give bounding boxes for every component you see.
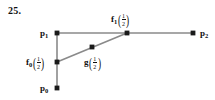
- point-p2: [191, 31, 196, 36]
- fraction-one-half: 1 2: [93, 56, 98, 70]
- label-g-half: g( 1 2 ): [84, 56, 101, 70]
- points-group: [55, 31, 196, 91]
- label-f1-half-name: f1: [111, 15, 117, 24]
- fraction-denominator: 2: [93, 63, 96, 69]
- paren-open-icon: (: [89, 57, 92, 69]
- point-p1: [55, 31, 60, 36]
- label-f1-half-subscript: 1: [114, 18, 117, 25]
- label-g-half-name: g: [84, 58, 89, 67]
- label-g-half-base: g: [84, 57, 89, 67]
- point-f0-half: [55, 60, 60, 65]
- label-p1-subscript: 1: [45, 32, 48, 39]
- fraction-denominator: 2: [122, 20, 125, 26]
- point-p0: [55, 86, 60, 91]
- label-p2-subscript: 2: [205, 32, 208, 39]
- paren-close-icon: ): [98, 57, 101, 69]
- label-p2: p2: [200, 29, 208, 38]
- paren-close-icon: ): [126, 14, 129, 26]
- paren-close-icon: ): [41, 57, 44, 69]
- label-f0-half-subscript: 0: [29, 61, 32, 68]
- label-p0: p0: [40, 84, 48, 93]
- label-p1: p1: [40, 29, 48, 38]
- label-f0-half: f0( 1 2 ): [26, 56, 45, 70]
- label-f1-half: f1( 1 2 ): [111, 13, 130, 27]
- figure-diagram: [0, 0, 215, 100]
- segments-group: [57, 33, 193, 88]
- paren-open-icon: (: [33, 57, 36, 69]
- label-f0-half-name: f0: [26, 58, 32, 67]
- figure-container: 25. p1 p2 p0 f1( 1 2: [0, 0, 215, 100]
- point-g-half: [90, 45, 95, 50]
- fraction-denominator: 2: [37, 63, 40, 69]
- paren-open-icon: (: [118, 14, 121, 26]
- label-p0-subscript: 0: [45, 87, 48, 94]
- point-f1-half: [125, 31, 130, 36]
